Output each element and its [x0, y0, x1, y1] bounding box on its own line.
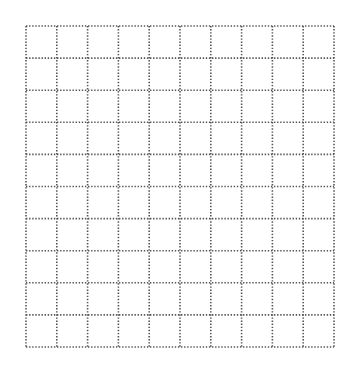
dotted-grid	[0, 0, 347, 368]
dotted-grid-canvas	[0, 0, 347, 368]
